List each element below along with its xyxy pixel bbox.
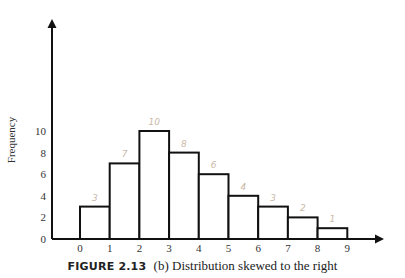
x-axis-arrow-icon — [375, 235, 384, 244]
bar-annotation: 3 — [92, 193, 98, 203]
y-tick-label: 2 — [41, 211, 47, 223]
x-tick-label: 5 — [226, 242, 232, 254]
x-tick-label: 0 — [77, 242, 83, 254]
x-tick-labels: 0123456789 — [77, 242, 350, 254]
bar-annotation: 6 — [211, 160, 217, 170]
y-tick-label: 10 — [35, 125, 47, 137]
x-tick-label: 6 — [255, 242, 261, 254]
histogram-bar — [288, 217, 318, 239]
bar-annotation: 2 — [300, 203, 306, 213]
bar-annotation: 7 — [122, 149, 128, 159]
x-tick-label: 9 — [345, 242, 351, 254]
bar-annotation: 10 — [149, 117, 161, 127]
x-tick-label: 2 — [137, 242, 143, 254]
bar-annotation: 1 — [330, 214, 336, 224]
histogram-bar — [199, 174, 229, 239]
histogram-bar — [169, 153, 199, 239]
histogram-bars — [80, 131, 347, 239]
x-tick-label: 4 — [196, 242, 202, 254]
histogram-bar — [229, 196, 259, 239]
y-tick-label: 0 — [41, 233, 47, 245]
x-tick-label: 7 — [285, 242, 291, 254]
x-tick-label: 1 — [107, 242, 113, 254]
bar-annotation: 8 — [181, 139, 187, 149]
histogram-bar — [258, 207, 288, 239]
histogram-bar — [318, 228, 348, 239]
y-axis-arrow-icon — [48, 19, 57, 28]
histogram-bar — [110, 163, 140, 239]
y-axis-label: Frequency — [5, 116, 17, 163]
caption-text: (b) Distribution skewed to the right — [154, 258, 338, 273]
histogram-bar — [80, 207, 110, 239]
bar-annotation: 3 — [270, 193, 276, 203]
bar-annotation: 4 — [240, 182, 246, 192]
histogram-bar — [139, 131, 169, 239]
x-tick-label: 3 — [166, 242, 172, 254]
figure-caption: FIGURE 2.13 (b) Distribution skewed to t… — [0, 258, 405, 274]
y-tick-label: 6 — [41, 168, 47, 180]
figure-label: FIGURE 2.13 — [68, 260, 147, 273]
x-tick-label: 8 — [315, 242, 321, 254]
y-tick-labels: 0246810 — [35, 125, 47, 245]
y-tick-label: 4 — [41, 190, 47, 202]
histogram-chart: 3710864321 0246810 0123456789 Frequency — [0, 0, 405, 278]
y-tick-label: 8 — [41, 147, 47, 159]
